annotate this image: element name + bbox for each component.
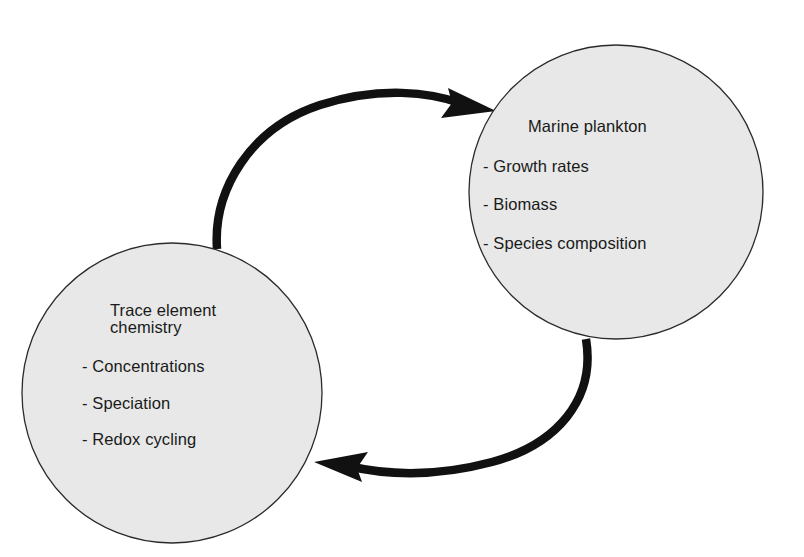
node-bullet-redox-cycling: - Redox cycling — [82, 431, 350, 448]
node-title-trace-element-chemistry-line2: chemistry — [110, 319, 350, 336]
node-bullet-species-composition: - Species composition — [483, 235, 765, 252]
node-bullet-growth-rates: - Growth rates — [483, 158, 765, 175]
arrow-chemistry-to-plankton-shaft — [217, 93, 463, 249]
node-title-trace-element-chemistry-line1: Trace element — [110, 302, 350, 319]
arrow-chemistry-to-plankton — [217, 88, 496, 249]
node-title-marine-plankton: Marine plankton — [528, 118, 765, 135]
arrow-plankton-to-chemistry — [314, 339, 588, 482]
arrow-plankton-to-chemistry-shaft — [348, 339, 588, 473]
node-bullet-concentrations: - Concentrations — [82, 358, 350, 375]
node-label-trace-element-chemistry: Trace element chemistry - Concentrations… — [60, 302, 350, 448]
node-bullet-biomass: - Biomass — [483, 196, 765, 213]
diagram-svg — [0, 0, 804, 557]
node-bullet-speciation: - Speciation — [82, 395, 350, 412]
diagram-canvas: Marine plankton - Growth rates - Biomass… — [0, 0, 804, 557]
node-label-marine-plankton: Marine plankton - Growth rates - Biomass… — [465, 118, 765, 251]
